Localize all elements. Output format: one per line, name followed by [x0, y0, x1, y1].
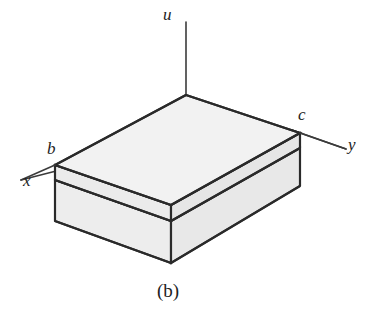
u-axis-label: u [163, 6, 172, 23]
x-axis-label: x [23, 172, 31, 189]
dimension-label-c: c [298, 106, 306, 123]
y-axis-foreground [300, 133, 346, 149]
y-axis-label: y [348, 136, 356, 153]
figure-caption: (b) [157, 281, 179, 300]
figure-container: u y x b c (b) [0, 0, 371, 326]
isometric-plate-diagram [0, 0, 371, 326]
dimension-label-b: b [47, 140, 56, 157]
